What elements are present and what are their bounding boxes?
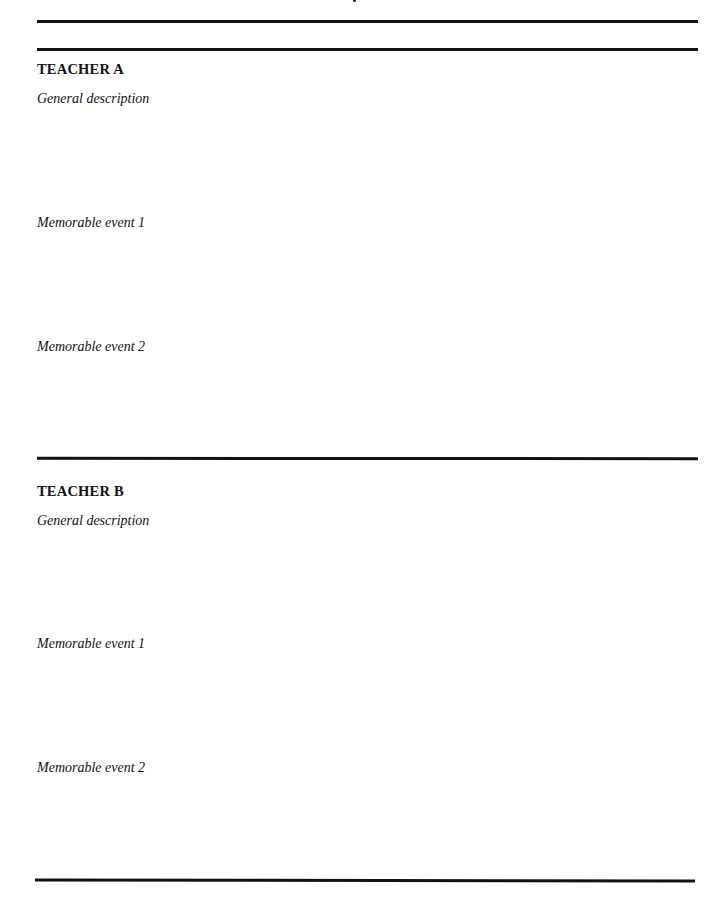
section-a-rule: [37, 48, 698, 51]
teacher-a-event-1-label: Memorable event 1: [37, 215, 145, 231]
teacher-b-general-description-answer[interactable]: [37, 534, 698, 629]
teacher-b-event-1-answer[interactable]: [37, 657, 698, 752]
teacher-a-event-1-answer[interactable]: [37, 236, 698, 331]
top-rule: [37, 20, 698, 23]
teacher-b-general-description-label: General description: [37, 513, 149, 529]
teacher-b-event-2-answer[interactable]: [37, 781, 698, 871]
section-b-rule: [37, 457, 698, 461]
bottom-rule: [35, 878, 695, 882]
teacher-a-event-2-answer[interactable]: [37, 360, 698, 450]
teacher-b-heading: TEACHER B: [37, 483, 124, 500]
cropped-title-fragment: [335, 0, 375, 4]
teacher-a-event-2-label: Memorable event 2: [37, 339, 145, 355]
teacher-a-heading: TEACHER A: [37, 61, 124, 78]
teacher-a-general-description-label: General description: [37, 91, 149, 107]
teacher-b-event-1-label: Memorable event 1: [37, 636, 145, 652]
teacher-b-event-2-label: Memorable event 2: [37, 760, 145, 776]
teacher-a-general-description-answer[interactable]: [37, 112, 698, 207]
